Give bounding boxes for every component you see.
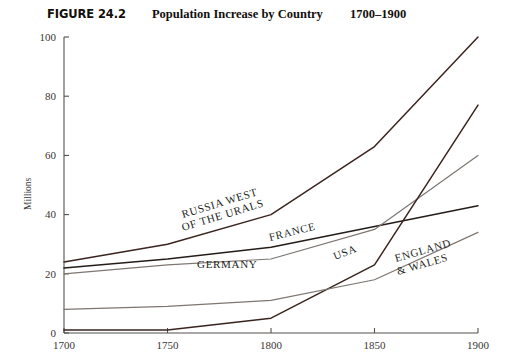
y-tick-label: 0: [51, 327, 57, 339]
line-chart: 020406080100 17001750180018501900 Millio…: [0, 0, 511, 361]
series-label: USA: [331, 242, 358, 262]
y-tick-label: 80: [45, 90, 57, 102]
y-axis-title: Millions: [23, 177, 33, 210]
x-tick-label: 1800: [260, 339, 283, 351]
x-axis-ticks: 17001750180018501900: [53, 328, 490, 351]
y-axis-ticks: 020406080100: [40, 31, 70, 339]
series-line: [64, 37, 478, 262]
x-tick-label: 1700: [53, 339, 76, 351]
figure-container: FIGURE 24.2 Population Increase by Count…: [0, 0, 511, 361]
x-tick-label: 1750: [157, 339, 180, 351]
series-label: GERMANY: [197, 258, 258, 270]
series-lines: [64, 37, 478, 330]
y-tick-label: 60: [45, 149, 57, 161]
y-tick-label: 40: [45, 208, 57, 220]
y-tick-label: 100: [40, 31, 57, 43]
x-tick-label: 1900: [467, 339, 490, 351]
y-tick-label: 20: [45, 268, 57, 280]
series-annotations: RUSSIA WESTOF THE URALSFRANCEGERMANYUSAE…: [180, 185, 452, 277]
x-tick-label: 1850: [364, 339, 387, 351]
